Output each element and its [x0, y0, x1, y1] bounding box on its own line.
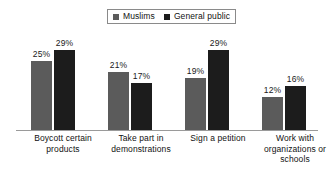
category-label: Sign a petition — [179, 133, 257, 144]
bar-general-public — [208, 50, 229, 130]
category-label-line: Work with — [252, 133, 330, 144]
bar-value-label: 29% — [56, 39, 73, 48]
bar-muslims — [262, 97, 283, 130]
bar-value-label: 12% — [264, 86, 281, 95]
legend-item-muslims: Muslims — [113, 12, 155, 21]
category-label-line: products — [21, 144, 105, 155]
bar-general-public — [285, 86, 306, 130]
category-label-line: organizations or — [252, 144, 330, 155]
bar-value-label: 16% — [287, 75, 304, 84]
chart-legend: Muslims General public — [107, 9, 236, 24]
bar-muslims — [185, 78, 206, 130]
legend-label-muslims: Muslims — [123, 12, 155, 21]
category-labels: Boycott certainproductsTake part indemon… — [0, 133, 330, 170]
category-label-line: Boycott certain — [21, 133, 105, 144]
bar-value-label: 17% — [133, 72, 150, 81]
legend-label-general-public: General public — [174, 12, 230, 21]
bar-general-public — [54, 50, 75, 130]
plot-area: 25%29%21%17%19%29%12%16% — [0, 26, 330, 132]
legend-item-general-public: General public — [164, 12, 230, 21]
bar-muslims — [108, 72, 129, 130]
grouped-bar-chart: Muslims General public 25%29%21%17%19%29… — [0, 0, 330, 170]
bar-value-label: 21% — [110, 61, 127, 70]
category-label: Boycott certainproducts — [21, 133, 105, 154]
category-label-line: Take part in — [99, 133, 183, 144]
bar-general-public — [131, 83, 152, 130]
bar-muslims — [31, 61, 52, 130]
x-axis-line — [16, 130, 318, 131]
bar-value-label: 29% — [210, 39, 227, 48]
category-label-line: demonstrations — [99, 144, 183, 155]
category-label-line: Sign a petition — [179, 133, 257, 144]
category-label-line: schools — [252, 154, 330, 165]
category-label: Work withorganizations orschools — [252, 133, 330, 165]
category-label: Take part indemonstrations — [99, 133, 183, 154]
bar-value-label: 19% — [187, 67, 204, 76]
bar-value-label: 25% — [33, 50, 50, 59]
legend-swatch-general-public — [164, 14, 170, 20]
legend-swatch-muslims — [113, 14, 119, 20]
